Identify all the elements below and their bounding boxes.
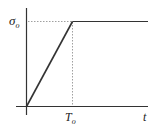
sigma-label: σo: [9, 13, 19, 30]
ramp-segment: [27, 22, 73, 107]
ramp-diagram: σo To t: [0, 0, 157, 132]
t-label: t: [143, 110, 147, 124]
t0-label: To: [65, 110, 76, 126]
